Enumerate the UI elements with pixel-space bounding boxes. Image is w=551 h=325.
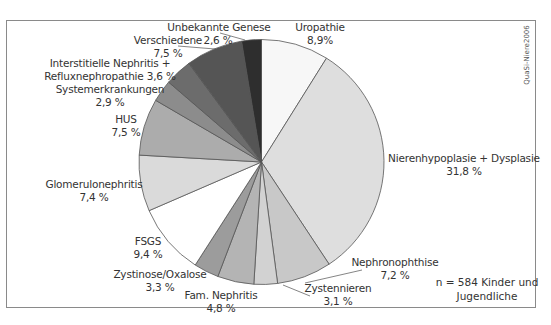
label-glomerulonephritis: Glomerulonephritis 7,4 % <box>44 178 144 204</box>
label-hus: HUS 7,5 % <box>108 113 144 139</box>
label-zystennieren: Zystennieren 3,1 % <box>298 282 378 308</box>
source-watermark: QuaSi-Niere2006 <box>521 26 533 84</box>
label-interstitielle: Interstitielle Nephritis + Refluxnephrop… <box>40 57 180 83</box>
label-unbekannte: Unbekannte Genese <box>164 21 274 34</box>
label-verschiedene: Verschiedene 7,5 % <box>128 34 208 60</box>
label-systemerkrankungen: Systemerkrankungen 2,9 % <box>55 83 165 109</box>
label-nephronophthise: Nephronophthise 7,2 % <box>345 256 445 282</box>
sample-size-note: n = 584 Kinder und Jugendliche <box>432 275 542 303</box>
label-nierenhypoplasie: Nierenhypoplasie + Dysplasie 31,8 % <box>384 152 544 178</box>
label-uropathie: Uropathie 8,9% <box>290 21 350 47</box>
label-unbekannte-value: 2,6 % <box>198 34 238 47</box>
label-fsgs: FSGS 9,4 % <box>126 235 170 261</box>
label-zystinose: Zystinose/Oxalose 3,3 % <box>110 268 210 294</box>
